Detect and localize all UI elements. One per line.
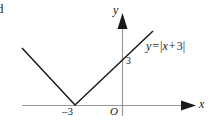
origin-label: O [110, 106, 118, 117]
graph-figure [0, 0, 215, 128]
y-axis-label: y [113, 4, 118, 16]
equation-label: y=|x+3| [146, 40, 185, 52]
x-axis-arrow-icon [181, 101, 196, 111]
x-tick-label-minus-3: –3 [62, 106, 73, 117]
x-axis-label: x [199, 98, 204, 110]
y-axis-arrow-icon [118, 13, 128, 29]
equation-equals: = [151, 39, 160, 53]
equation-bar-close: | [183, 39, 185, 53]
equation-plus: + [168, 39, 177, 53]
absolute-value-curve [22, 31, 153, 105]
y-intercept-label-3: 3 [126, 56, 131, 66]
